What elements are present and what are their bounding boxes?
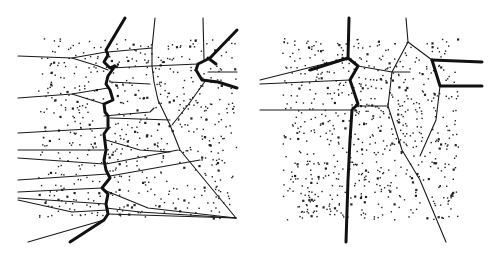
cell-boundary-line [388, 18, 446, 242]
cell-boundary-line [18, 88, 108, 98]
cell-boundary-line [18, 52, 106, 58]
figure [0, 0, 499, 258]
cell-boundary-line [260, 80, 350, 84]
cell-boundary-line [18, 200, 108, 212]
bold-cluster-boundary-line [196, 30, 237, 88]
right-panel-partition-diagram [260, 18, 482, 242]
cell-boundary-line [18, 188, 102, 192]
cell-boundary-line [28, 220, 104, 242]
cell-boundary-line [110, 160, 200, 176]
voronoi-diagram-canvas [0, 0, 499, 258]
bold-cluster-boundary-line [432, 60, 482, 86]
cell-boundary-line [72, 58, 108, 70]
cell-boundary-line [18, 158, 104, 164]
left-panel-partition-diagram [18, 18, 237, 242]
cell-boundary-line [106, 150, 178, 164]
cell-boundary-line [110, 118, 170, 120]
bold-cluster-boundary-line [208, 58, 216, 64]
bold-cluster-boundary-line [346, 18, 358, 242]
cell-boundary-line [18, 174, 108, 180]
cell-boundary-line [172, 80, 206, 125]
cell-boundary-line [104, 108, 154, 116]
bold-cluster-boundary-line [432, 60, 482, 62]
cell-boundary-line [152, 18, 236, 218]
cell-boundary-line [110, 64, 198, 68]
cell-boundary-line [203, 18, 204, 60]
cell-boundary-line [408, 42, 432, 60]
bold-cluster-boundary-line [310, 58, 348, 70]
point-cloud [38, 38, 237, 219]
